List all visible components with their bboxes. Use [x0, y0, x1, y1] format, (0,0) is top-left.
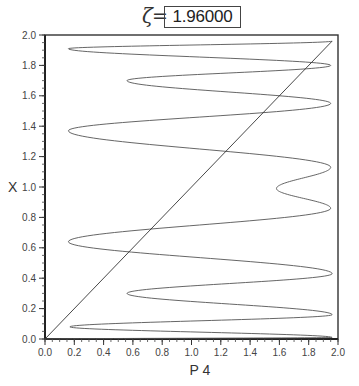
x-tick-label: 1.8 — [302, 347, 316, 358]
data-series — [45, 41, 332, 339]
y-tick-label: 0.6 — [22, 242, 36, 253]
y-tick-label: 0.4 — [22, 273, 36, 284]
x-tick-label: 2.0 — [331, 347, 345, 358]
y-tick-label: 2.0 — [22, 30, 36, 41]
x-tick-label: 1.6 — [272, 347, 286, 358]
y-tick-label: 1.2 — [22, 151, 36, 162]
x-tick-label: 1.4 — [243, 347, 257, 358]
x-tick-label: 0.0 — [38, 347, 52, 358]
x-tick-label: 1.2 — [214, 347, 228, 358]
y-tick-label: 1.4 — [22, 121, 36, 132]
x-tick-label: 0.2 — [67, 347, 81, 358]
x-tick-label: 0.6 — [126, 347, 140, 358]
x-tick-label: 1.0 — [185, 347, 199, 358]
y-tick-label: 0.8 — [22, 212, 36, 223]
y-tick-label: 1.6 — [22, 90, 36, 101]
x-axis-title: P 4 — [190, 362, 211, 378]
chart-plot: 0.00.20.40.60.81.01.21.41.61.82.00.00.20… — [0, 0, 359, 386]
x-tick-label: 0.8 — [155, 347, 169, 358]
y-tick-label: 0.2 — [22, 303, 36, 314]
x-tick-label: 0.4 — [97, 347, 111, 358]
y-tick-label: 1.8 — [22, 60, 36, 71]
y-axis-title: X — [8, 179, 18, 195]
identity-line — [45, 41, 332, 339]
axis-labels: 0.00.20.40.60.81.01.21.41.61.82.00.00.20… — [8, 30, 345, 379]
y-tick-label: 0.0 — [22, 334, 36, 345]
y-tick-label: 1.0 — [22, 182, 36, 193]
